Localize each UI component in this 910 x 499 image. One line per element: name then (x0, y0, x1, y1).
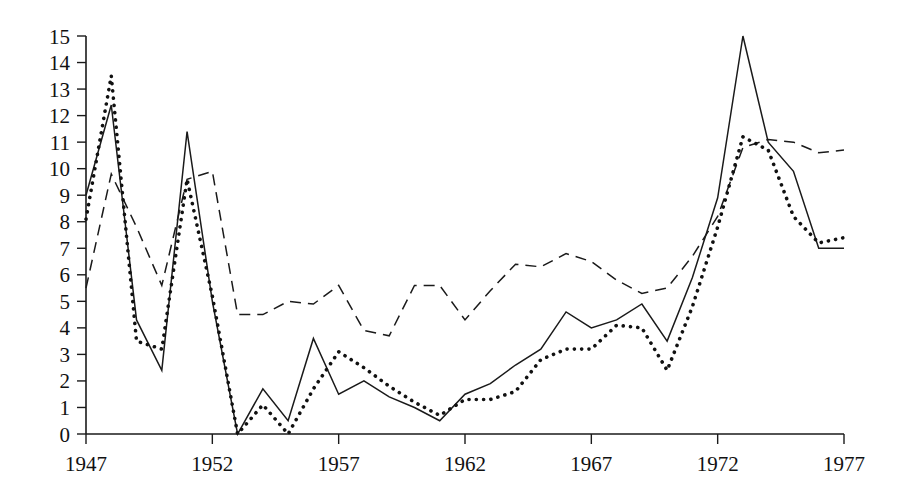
y-tick-label: 1 (60, 396, 71, 420)
y-tick-label: 4 (60, 316, 71, 340)
x-axis-tick-labels: 1947195219571962196719721977 (65, 452, 865, 476)
y-tick-label: 12 (49, 104, 70, 128)
chart-axes (77, 36, 844, 444)
y-tick-label: 8 (60, 210, 71, 234)
series-line-dotted-series (86, 76, 844, 434)
y-tick-label: 0 (60, 423, 71, 447)
y-tick-label: 6 (60, 263, 71, 287)
y-tick-label: 13 (49, 78, 70, 102)
x-tick-label: 1967 (570, 452, 612, 476)
x-tick-label: 1957 (318, 452, 360, 476)
y-tick-label: 7 (60, 237, 71, 261)
y-tick-label: 3 (60, 343, 71, 367)
x-tick-label: 1977 (823, 452, 865, 476)
y-tick-label: 9 (60, 184, 71, 208)
series-line-solid-series (86, 36, 844, 434)
x-tick-label: 1947 (65, 452, 107, 476)
y-tick-label: 5 (60, 290, 71, 314)
y-tick-label: 11 (50, 131, 70, 155)
x-tick-label: 1972 (697, 452, 739, 476)
y-tick-label: 2 (60, 369, 71, 393)
x-tick-label: 1952 (191, 452, 233, 476)
chart-canvas: 0123456789101112131415 19471952195719621… (0, 0, 910, 499)
chart-series-group (86, 36, 844, 434)
line-chart: 0123456789101112131415 19471952195719621… (0, 0, 910, 499)
y-tick-label: 10 (49, 157, 70, 181)
y-tick-label: 14 (49, 51, 71, 75)
x-tick-label: 1962 (444, 452, 486, 476)
y-tick-label: 15 (49, 25, 70, 49)
y-axis-tick-labels: 0123456789101112131415 (49, 25, 71, 447)
